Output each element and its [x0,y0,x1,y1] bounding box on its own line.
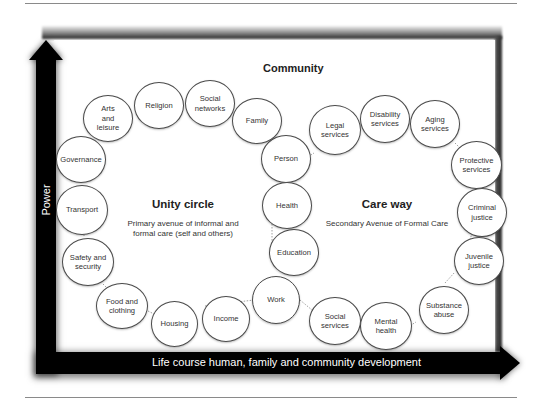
node-mental-health: Mental health [360,302,412,350]
node-criminal-justice: Criminal justice [457,188,507,237]
node-arts-and-leisure: Arts and leisure [83,95,133,142]
node-income: Income [202,296,250,342]
node-person: Person [261,135,311,183]
node-safety-and-security: Safety and security [62,238,114,286]
node-religion: Religion [134,82,184,129]
node-social-networks: Social networks [185,80,235,127]
unity-circle-title: Unity circle [152,198,214,210]
bottom-rule [25,397,517,398]
node-substance-abuse: Substance abuse [419,286,469,334]
node-family: Family [232,98,282,144]
care-way-subtitle: Secondary Avenue of Formal Care [326,218,449,229]
unity-circle-subtitle-2: formal care (self and others) [133,228,233,239]
diagram-title: Community [263,62,324,74]
node-housing: Housing [151,301,198,347]
node-protective-services: Protective services [451,141,502,189]
node-food-and-clothing: Food and clothing [96,283,148,329]
node-disability-services: Disability services [360,95,410,143]
node-juvenile-justice: Juvenile justice [454,237,504,285]
node-aging-services: Aging services [410,100,460,148]
node-health: Health [262,182,312,229]
node-governance: Governance [56,136,106,183]
care-way-title: Care way [362,198,413,210]
node-legal-services: Legal services [309,105,361,155]
node-social-services: Social services [309,297,361,345]
node-work: Work [252,276,300,324]
node-education: Education [269,229,319,276]
node-transport: Transport [56,185,108,235]
